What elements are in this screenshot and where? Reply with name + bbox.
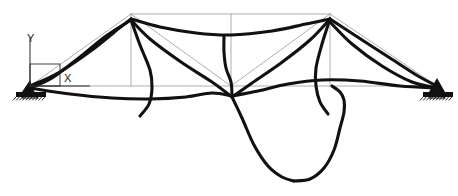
- left-pin-support-hatch: [16, 97, 19, 100]
- coordinate-triad-group: [30, 38, 90, 86]
- right-pin-support-hatch: [426, 97, 429, 100]
- deformed-curve-left-stay-upper: [30, 19, 131, 86]
- deformed-curve-bottom-chord-left-sag: [30, 88, 232, 99]
- deformed-curve-top-chord-sag: [131, 19, 330, 35]
- right-support-wedge: [429, 78, 445, 92]
- deformed-shape-group: [30, 19, 437, 181]
- undeformed-member-left-diagonal-up: [30, 14, 131, 86]
- deformed-curve-deep-dip-left-limb: [232, 97, 294, 181]
- right-pin-support-hatch: [423, 97, 426, 100]
- deformed-curve-left-web-fan-b: [131, 20, 152, 116]
- left-pin-support-hatch: [13, 97, 16, 100]
- undeformed-member-right-diagonal-up: [330, 14, 437, 86]
- x-axis-label: X: [64, 73, 71, 84]
- y-axis-label: Y: [27, 33, 34, 44]
- right-pin-support-hatch: [420, 97, 423, 100]
- left-pin-support-hatch: [39, 97, 42, 100]
- left-pin-support-hatch: [19, 97, 22, 100]
- left-pin-support-ground-bar: [16, 92, 46, 97]
- right-pin-support-hatch: [446, 97, 449, 100]
- figure-canvas: Y X: [0, 0, 458, 196]
- left-pin-support-hatch: [42, 97, 45, 100]
- right-pin-support-ground-bar: [423, 92, 453, 97]
- deformed-curve-right-stay-upper: [330, 19, 437, 86]
- deformed-shape-plot: [0, 0, 458, 196]
- right-pin-support-hatch: [449, 97, 452, 100]
